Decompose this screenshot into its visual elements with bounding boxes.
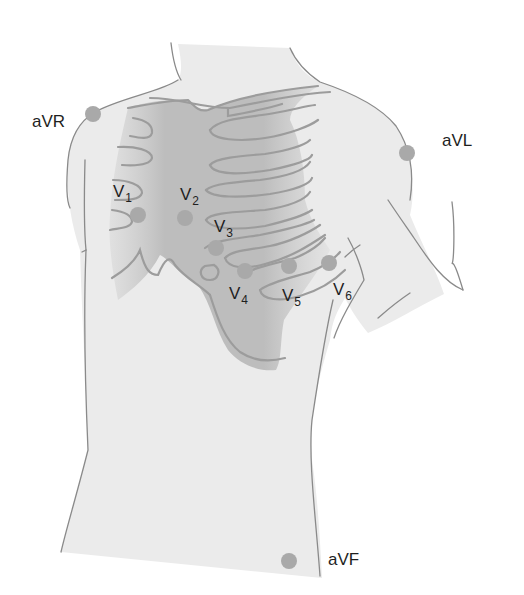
label-v1: V1	[113, 183, 132, 204]
label-v6-text: V	[333, 280, 344, 299]
label-v1-sub: 1	[125, 191, 132, 205]
electrode-avf	[281, 553, 297, 569]
label-v5: V5	[282, 287, 301, 308]
electrode-v2	[177, 210, 193, 226]
label-v2: V2	[180, 186, 199, 207]
label-v4-sub: 4	[241, 293, 248, 307]
electrode-avl	[399, 145, 415, 161]
label-v5-text: V	[282, 286, 293, 305]
label-avl-text: aVL	[442, 131, 472, 150]
label-v6-sub: 6	[345, 289, 352, 303]
label-v4: V4	[229, 285, 248, 306]
label-v3: V3	[214, 218, 233, 239]
label-v6: V6	[333, 281, 352, 302]
label-v1-text: V	[113, 182, 124, 201]
torso-diagram	[0, 0, 524, 595]
label-v3-text: V	[214, 217, 225, 236]
label-avf: aVF	[328, 551, 359, 568]
label-v5-sub: 5	[294, 295, 301, 309]
electrode-v6	[321, 255, 337, 271]
label-v4-text: V	[229, 284, 240, 303]
label-avr: aVR	[32, 113, 65, 130]
label-v3-sub: 3	[226, 226, 233, 240]
electrode-v3	[208, 240, 224, 256]
label-v2-sub: 2	[192, 194, 199, 208]
label-v2-text: V	[180, 185, 191, 204]
electrode-v1	[130, 207, 146, 223]
electrode-v5	[281, 258, 297, 274]
label-avl: aVL	[442, 132, 472, 149]
electrode-avr	[85, 106, 101, 122]
electrode-v4	[237, 263, 253, 279]
label-avr-text: aVR	[32, 112, 65, 131]
label-avf-text: aVF	[328, 550, 359, 569]
